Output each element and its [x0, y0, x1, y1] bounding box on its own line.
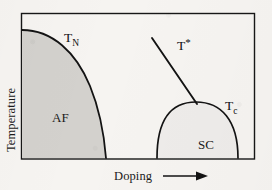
y-axis-label: Temperature: [4, 88, 18, 152]
t-star-label: T*: [177, 36, 191, 54]
phase-diagram-canvas: TN T* Tc AF SC Temperature Doping: [0, 0, 272, 190]
t-neel-label-subscript: N: [72, 38, 79, 48]
t-star-label-superscript: *: [185, 36, 191, 48]
af-region-label: AF: [52, 110, 69, 125]
t-star-line: [152, 38, 197, 104]
x-axis-label: Doping: [114, 169, 153, 183]
t-c-label-subscript: c: [233, 106, 237, 116]
phase-diagram-figure: TN T* Tc AF SC Temperature Doping: [0, 0, 272, 190]
sc-region-label: SC: [198, 137, 214, 152]
t-c-label: Tc: [225, 98, 237, 116]
doping-arrow-icon: [163, 172, 208, 181]
t-neel-label: TN: [64, 30, 79, 48]
